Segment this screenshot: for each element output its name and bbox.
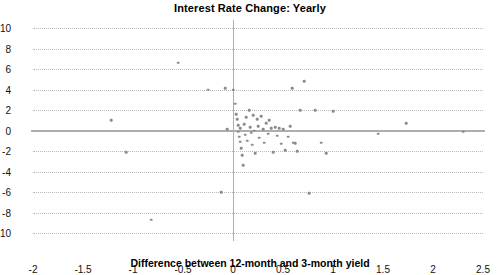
data-point [250,131,253,134]
y-gridline [33,49,483,50]
data-point [332,110,335,113]
y-axis-tick-label: 4 [0,84,11,95]
data-point [287,135,290,138]
data-point [220,191,223,194]
data-point [243,123,246,126]
y-axis-tick-label: 10 [0,23,11,34]
data-point [272,151,275,154]
data-point [254,152,257,155]
data-point [462,130,465,133]
data-point [294,142,297,145]
data-point [267,132,270,135]
data-point [246,139,249,142]
data-point [245,116,248,119]
data-point [241,154,244,157]
y-axis-tick-label: -4 [0,166,11,177]
data-point [284,149,287,152]
data-point [207,88,210,91]
data-point [265,122,268,125]
data-point [320,142,323,145]
data-point [260,115,263,118]
data-point [234,103,237,106]
data-point [405,122,408,125]
data-point [242,164,245,167]
data-point [268,119,271,122]
data-point [253,129,256,132]
y-gridline [33,69,483,70]
data-point [325,152,328,155]
data-point [252,114,255,117]
data-point [263,142,266,145]
data-point [251,144,254,147]
data-point [125,151,128,154]
data-point [299,109,302,112]
data-point [238,135,241,138]
data-point [308,192,311,195]
data-point [257,125,260,128]
data-point [291,87,294,90]
y-zero-reference-line [31,130,485,132]
data-point [177,62,180,65]
data-point [314,109,317,112]
x-axis-label: Difference between 12-month and 3-month … [0,257,500,269]
y-gridline [33,28,483,29]
data-point [270,127,273,130]
data-point [249,126,252,129]
data-point [377,132,380,135]
data-point [282,128,285,131]
data-point [239,140,242,143]
data-point [262,128,265,131]
y-axis-tick-label: 2 [0,105,11,116]
data-point [303,80,306,83]
y-axis-tick-label: -2 [0,146,11,157]
data-point [280,143,283,146]
y-gridline [33,151,483,152]
y-axis-tick-label: 8 [0,43,11,54]
y-axis-tick-label: 0 [0,125,11,136]
x-zero-reference-line [233,20,234,241]
data-point [224,87,227,90]
y-axis-tick-label: -6 [0,187,11,198]
data-point [248,109,251,112]
data-point [239,127,242,130]
data-point [244,133,247,136]
y-gridline [33,90,483,91]
y-gridline [33,110,483,111]
chart-title: Interest Rate Change: Yearly [0,2,500,14]
y-gridline [33,192,483,193]
y-axis-tick-label: -10 [0,228,11,239]
data-point [237,130,240,133]
y-axis-tick-label: -8 [0,207,11,218]
data-point [289,125,292,128]
data-point [150,218,153,221]
data-point [236,118,239,121]
y-gridline [33,233,483,234]
plot-area: 1086420-2-4-6-8-10-2-1.5-1-0.500.511.522… [33,28,483,233]
data-point [256,118,259,121]
data-point [235,113,238,116]
data-point [232,88,235,91]
data-point [240,147,243,150]
data-point [276,134,279,137]
data-point [278,127,281,130]
y-axis-tick-label: 6 [0,64,11,75]
y-gridline [33,172,483,173]
data-point [274,126,277,129]
y-gridline [33,213,483,214]
data-point [226,128,229,131]
data-point [258,136,261,139]
data-point [296,150,299,153]
data-point [110,119,113,122]
